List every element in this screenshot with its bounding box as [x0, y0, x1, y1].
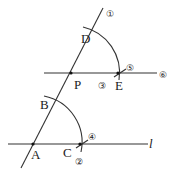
label-D: D	[81, 31, 90, 46]
point-P	[69, 71, 72, 74]
point-E	[116, 71, 119, 74]
label-A: A	[31, 147, 41, 162]
label-P: P	[74, 77, 81, 92]
label-E: E	[115, 78, 123, 93]
step-5-marker: ⑤	[126, 63, 134, 73]
point-A	[31, 142, 34, 145]
label-B: B	[40, 97, 49, 112]
label-C: C	[63, 145, 72, 160]
construction-diagram: D P E B A C l ① ② ③ ④ ⑤ ⑥	[0, 0, 177, 182]
label-line-l: l	[149, 136, 153, 151]
step-4-marker: ④	[88, 132, 96, 142]
step-3-marker: ③	[98, 81, 106, 91]
point-C	[78, 142, 81, 145]
step-6-marker: ⑥	[159, 70, 167, 80]
diagram-canvas: D P E B A C l ① ② ③ ④ ⑤ ⑥	[0, 0, 177, 182]
step-2-marker: ②	[75, 157, 83, 167]
step-1-marker: ①	[106, 9, 114, 19]
